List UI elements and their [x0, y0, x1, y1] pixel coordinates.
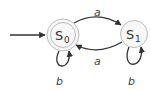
transition-s1-s0: [76, 42, 122, 50]
transition-s0-s0: [57, 51, 69, 66]
transition-s1-s1: [127, 47, 141, 64]
state-s1: S 1: [121, 21, 148, 48]
state-diagram: a a b b S 0 S 1: [0, 0, 151, 89]
svg-text:1: 1: [135, 34, 141, 44]
transition-label-s1-s1: b: [128, 75, 135, 88]
svg-text:0: 0: [64, 35, 70, 45]
transition-label-s0-s0: b: [56, 75, 63, 88]
svg-text:S: S: [126, 27, 134, 42]
transition-label-s0-s1: a: [94, 6, 101, 19]
state-s0: S 0: [47, 19, 79, 51]
transition-label-s1-s0: a: [94, 55, 101, 68]
svg-text:S: S: [55, 28, 63, 43]
